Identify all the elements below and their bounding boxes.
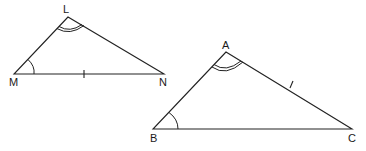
triangle-lmn-outline bbox=[14, 17, 164, 74]
vertex-label-n: N bbox=[159, 76, 167, 88]
triangle-abc: A B C bbox=[150, 39, 356, 144]
tick-mark-ac bbox=[290, 81, 293, 88]
angle-mark-m bbox=[28, 60, 34, 75]
diagram-canvas: L M N A B C bbox=[0, 0, 366, 151]
triangle-lmn: L M N bbox=[9, 3, 167, 88]
triangle-abc-outline bbox=[153, 52, 352, 129]
vertex-label-m: M bbox=[9, 76, 18, 88]
vertex-label-l: L bbox=[63, 3, 69, 15]
vertex-label-c: C bbox=[348, 132, 356, 144]
vertex-label-a: A bbox=[222, 39, 230, 51]
vertex-label-b: B bbox=[150, 132, 157, 144]
angle-mark-b bbox=[169, 113, 178, 130]
